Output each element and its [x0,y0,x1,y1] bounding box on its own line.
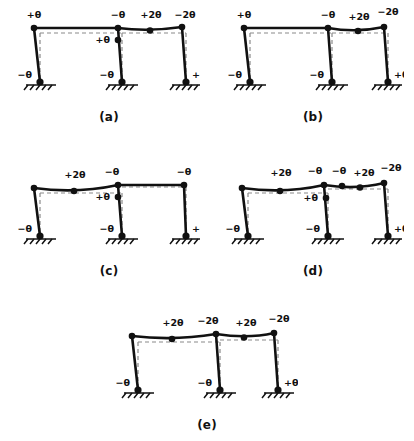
label-c-mid-column: +θ [96,191,111,202]
label-c-top-mid-left: −θ [105,166,120,177]
label-b-top-mid-left: −θ [321,9,336,20]
label-d-top-right: −2θ [380,162,402,173]
support-left-c [24,239,56,244]
frame-panel-b: +θ −θ +2θ −2θ −θ −θ +θ (b) [222,6,404,128]
label-d-top-left: +2θ [270,167,292,178]
support-right-e [262,393,294,398]
label-d-top-mid-right: +2θ [353,167,375,178]
label-b-top-left: +θ [237,9,252,20]
support-mid-b [316,85,348,90]
label-d-mid-column: +θ [304,192,319,203]
support-right-c [170,239,200,244]
support-right-d [372,239,402,244]
frame-drawing-c: +2θ −θ −θ +θ −θ −θ +θ [18,160,200,264]
figure-sheet: +θ −θ +2θ −2θ +θ −θ −θ +θ (a) [0,0,414,441]
label-a-top-right: −2θ [174,9,196,20]
support-mid-a [106,85,138,90]
frame-panel-a: +θ −θ +2θ −2θ +θ −θ −θ +θ (a) [18,6,200,128]
label-d-base-left: −θ [226,223,241,234]
support-mid-d [312,239,344,244]
label-b-top-right: −2θ [377,6,399,17]
label-a-base-right: +θ [192,69,200,80]
caption-b: (b) [222,110,404,124]
label-c-base-mid: −θ [100,223,115,234]
label-d-top-mid-left: −θ [308,165,323,176]
label-c-base-left: −θ [18,223,32,234]
label-c-top-left: +2θ [64,169,86,180]
frame-drawing-d: +2θ −θ −θ +2θ −2θ +θ −θ −θ +θ [222,160,404,264]
label-e-top-left: +2θ [162,317,184,328]
label-e-top-right: −2θ [268,313,290,324]
label-c-top-right: −θ [177,166,192,177]
caption-e: (e) [116,418,298,432]
frame-panel-e: +2θ −2θ +2θ −2θ −θ −θ +θ (e) [116,310,298,435]
label-a-top-mid-left: −θ [111,9,126,20]
label-b-base-mid: −θ [310,69,325,80]
support-right-b [372,85,402,90]
label-e-base-right: +θ [284,377,298,388]
label-d-base-right: +θ [394,223,404,234]
label-e-base-mid: −θ [198,377,213,388]
label-e-top-mid-left: −2θ [197,315,219,326]
label-b-base-right: +θ [394,69,404,80]
label-e-top-mid-right: +2θ [235,317,257,328]
support-left-a [24,85,56,90]
support-mid-c [106,239,138,244]
label-b-base-left: −θ [228,69,243,80]
label-a-mid-column: +θ [96,34,111,45]
label-a-top-mid-right: +2θ [140,9,162,20]
frame-drawing-a: +θ −θ +2θ −2θ +θ −θ −θ +θ [18,6,200,110]
label-d-top-mid-left2: −θ [332,165,347,176]
support-left-e [122,393,154,398]
caption-d: (d) [222,264,404,278]
label-a-base-mid: −θ [100,69,115,80]
label-d-base-mid: −θ [306,223,321,234]
frame-panel-c: +2θ −θ −θ +θ −θ −θ +θ (c) [18,160,200,282]
frame-drawing-b: +θ −θ +2θ −2θ −θ −θ +θ [222,6,404,110]
label-c-base-right: +θ [192,223,200,234]
label-e-base-left: −θ [116,377,130,388]
frame-panel-d: +2θ −θ −θ +2θ −2θ +θ −θ −θ +θ (d) [222,160,404,282]
support-mid-e [204,393,236,398]
label-b-top-mid-right: +2θ [348,11,370,22]
support-left-d [232,239,264,244]
label-a-base-left: −θ [18,69,32,80]
support-right-a [170,85,200,90]
caption-a: (a) [18,110,200,124]
caption-c: (c) [18,264,200,278]
frame-drawing-e: +2θ −2θ +2θ −2θ −θ −θ +θ [116,310,298,419]
support-left-b [234,85,266,90]
label-a-top-left: +θ [27,9,42,20]
